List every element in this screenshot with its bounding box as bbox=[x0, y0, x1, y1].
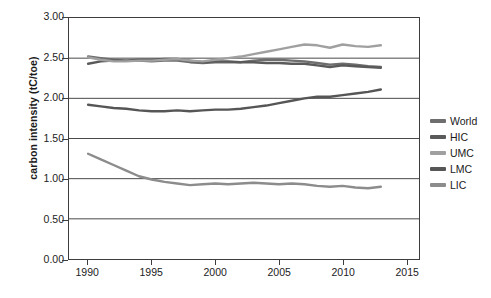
legend-item-umc[interactable]: UMC bbox=[430, 145, 490, 161]
x-tick-mark bbox=[343, 260, 344, 265]
chart-legend: WorldHICUMCLMCLIC bbox=[430, 113, 490, 193]
legend-label: LMC bbox=[450, 163, 472, 175]
x-tick-label: 2010 bbox=[320, 266, 366, 278]
chart-lines bbox=[69, 18, 419, 259]
legend-item-hic[interactable]: HIC bbox=[430, 129, 490, 145]
chart-figure: carbon intensity (tC/toe) 3.002.502.001.… bbox=[0, 0, 491, 298]
legend-item-world[interactable]: World bbox=[430, 113, 490, 129]
x-tick-mark bbox=[87, 260, 88, 265]
legend-swatch-icon bbox=[430, 135, 446, 139]
x-tick-label: 2000 bbox=[192, 266, 238, 278]
x-tick-mark bbox=[407, 260, 408, 265]
y-tick-label: 1.50 bbox=[18, 132, 64, 144]
series-line-umc bbox=[88, 45, 381, 62]
x-tick-label: 2015 bbox=[384, 266, 430, 278]
y-tick-label: 0.50 bbox=[18, 213, 64, 225]
y-tick-label: 2.00 bbox=[18, 91, 64, 103]
x-tick-mark bbox=[151, 260, 152, 265]
y-tick-mark bbox=[62, 260, 68, 261]
legend-swatch-icon bbox=[430, 167, 446, 171]
series-line-lic bbox=[88, 154, 381, 189]
x-tick-mark bbox=[279, 260, 280, 265]
legend-item-lmc[interactable]: LMC bbox=[430, 161, 490, 177]
legend-swatch-icon bbox=[430, 119, 446, 123]
x-tick-label: 1990 bbox=[64, 266, 110, 278]
x-tick-label: 2005 bbox=[256, 266, 302, 278]
legend-label: LIC bbox=[450, 179, 466, 191]
legend-label: World bbox=[450, 115, 477, 127]
legend-label: UMC bbox=[450, 147, 474, 159]
series-line-lmc bbox=[88, 89, 381, 111]
x-tick-label: 1995 bbox=[128, 266, 174, 278]
y-tick-label: 1.00 bbox=[18, 172, 64, 184]
y-tick-label: 2.50 bbox=[18, 51, 64, 63]
legend-label: HIC bbox=[450, 131, 468, 143]
y-tick-label: 3.00 bbox=[18, 10, 64, 22]
legend-item-lic[interactable]: LIC bbox=[430, 177, 490, 193]
y-tick-label: 0.00 bbox=[18, 253, 64, 265]
x-tick-mark bbox=[215, 260, 216, 265]
legend-swatch-icon bbox=[430, 151, 446, 155]
plot-area bbox=[68, 17, 420, 260]
legend-swatch-icon bbox=[430, 183, 446, 187]
